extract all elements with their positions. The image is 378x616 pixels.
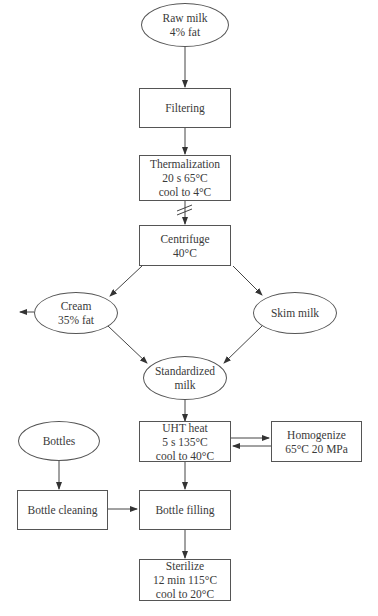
node-bottles: Bottles [18, 421, 100, 461]
node-label: cool to 4°C [159, 185, 212, 199]
node-label: 20 s 65°C [162, 171, 208, 185]
node-label: Centrifuge [160, 232, 209, 246]
node-label: 5 s 135°C [162, 435, 208, 449]
node-filtering: Filtering [139, 88, 231, 128]
node-label: Skim milk [271, 306, 319, 320]
node-label: 4% fat [170, 25, 200, 39]
node-label: Cream [61, 299, 92, 313]
node-label: Bottle filling [155, 503, 214, 517]
node-label: 65°C 20 MPa [285, 442, 348, 456]
node-uht-heat: UHT heat 5 s 135°C cool to 40°C [139, 421, 231, 462]
node-thermalization: Thermalization 20 s 65°C cool to 4°C [139, 155, 231, 201]
node-centrifuge: Centrifuge 40°C [139, 225, 231, 266]
node-cream: Cream 35% fat [34, 292, 118, 334]
node-homogenize: Homogenize 65°C 20 MPa [271, 421, 362, 462]
node-label: Bottle cleaning [28, 503, 98, 517]
node-label: 12 min 115°C [153, 573, 217, 587]
node-label: cool to 40°C [156, 449, 214, 463]
node-label: 35% fat [58, 313, 94, 327]
node-bottle-filling: Bottle filling [139, 490, 231, 530]
node-label: 40°C [173, 246, 197, 260]
edge-skim-to-standardized [224, 326, 262, 363]
node-label: Filtering [165, 101, 205, 115]
edge-centrifuge-to-skim [233, 266, 262, 295]
edge-centrifuge-to-cream [110, 266, 142, 296]
node-raw-milk: Raw milk 4% fat [141, 3, 229, 47]
edge-cream-to-standardized [108, 326, 147, 363]
node-label: Standardized [155, 364, 215, 378]
node-sterilize: Sterilize 12 min 115°C cool to 20°C [139, 559, 231, 601]
node-label: UHT heat [162, 421, 207, 435]
node-bottle-cleaning: Bottle cleaning [17, 490, 108, 530]
node-label: Raw milk [162, 11, 207, 25]
node-label: milk [174, 378, 195, 392]
node-label: Bottles [43, 434, 76, 448]
node-skim-milk: Skim milk [253, 292, 337, 334]
node-label: Homogenize [287, 428, 346, 442]
node-label: cool to 20°C [156, 587, 214, 601]
node-label: Thermalization [150, 157, 220, 171]
node-label: Sterilize [166, 559, 204, 573]
node-standardized-milk: Standardized milk [143, 356, 227, 400]
